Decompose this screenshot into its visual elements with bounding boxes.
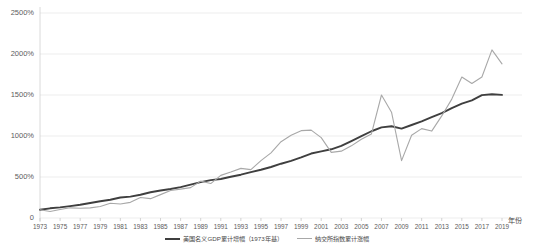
data-series (40, 50, 502, 212)
y-axis-tick-label: 2000% (11, 49, 35, 58)
legend-item-label: 纳交所指数累计涨幅 (315, 236, 369, 242)
y-axis-tick-label: 0 (30, 213, 34, 222)
x-axis-tick-label: 2017 (475, 223, 490, 230)
x-axis-title: 年份 (508, 216, 522, 225)
x-axis-tick-label: 1973 (33, 223, 48, 230)
x-axis-tick-label: 2005 (354, 223, 369, 230)
x-axis-line (40, 7, 502, 222)
x-axis-labels: 1973197519771979198119831985198719891991… (33, 223, 510, 230)
x-axis-tick-label: 2013 (435, 223, 450, 230)
y-axis-tick-label: 1000% (11, 131, 35, 140)
legend-item[interactable]: 美国名义GDP累计增幅（1973年基） (165, 236, 282, 242)
y-axis-labels: 0500%1000%1500%2000%2500% (11, 8, 35, 222)
legend-item-label: 美国名义GDP累计增幅（1973年基） (183, 236, 282, 242)
x-axis-tick-label: 1985 (153, 223, 168, 230)
line-chart: 0500%1000%1500%2000%2500% 19731975197719… (0, 0, 534, 250)
x-axis-tick-label: 1997 (274, 223, 289, 230)
x-axis-tick-label: 2011 (415, 223, 429, 230)
y-axis-tick-label: 500% (15, 172, 35, 181)
x-axis-tick-label: 2003 (334, 223, 349, 230)
x-axis-tick-label: 1993 (234, 223, 249, 230)
x-axis-tick-label: 1995 (254, 223, 269, 230)
x-axis-tick-label: 1989 (194, 223, 209, 230)
series-line-2 (40, 50, 502, 212)
x-axis-tick-label: 1979 (93, 223, 108, 230)
x-axis-tick-label: 2015 (455, 223, 470, 230)
x-axis-tick-label: 1981 (113, 223, 128, 230)
x-axis-tick-label: 1999 (294, 223, 309, 230)
x-axis-tick-label: 1983 (133, 223, 148, 230)
x-axis-tick-label: 1975 (53, 223, 68, 230)
legend-item[interactable]: 纳交所指数累计涨幅 (297, 236, 369, 242)
chart-legend: 美国名义GDP累计增幅（1973年基）纳交所指数累计涨幅 (0, 231, 534, 247)
x-axis-tick-label: 2007 (374, 223, 389, 230)
x-axis-tick-label: 1991 (214, 223, 229, 230)
y-axis-tick-label: 1500% (11, 90, 35, 99)
legend-swatch-line-icon (297, 238, 312, 239)
x-axis-tick-label: 1987 (173, 223, 188, 230)
gridlines (40, 13, 522, 218)
y-axis-tick-label: 2500% (11, 8, 35, 17)
x-axis-tick-label: 2009 (394, 223, 409, 230)
x-axis-tick-label: 2001 (314, 223, 329, 230)
chart-container: 0500%1000%1500%2000%2500% 19731975197719… (0, 0, 534, 250)
legend-swatch-line-icon (165, 238, 180, 240)
x-axis-tick-label: 1977 (73, 223, 88, 230)
